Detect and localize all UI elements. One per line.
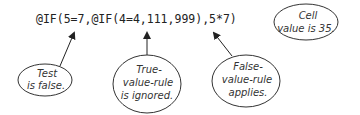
callout-test-line-1: Test [37, 68, 58, 79]
callout-cell-value-line-2: value is 35. [277, 23, 335, 34]
callout-false-value-rule: False- value-rule applies. [212, 55, 280, 107]
arrow-false-value-rule [214, 33, 232, 56]
callout-cell-value: Cell value is 35. [274, 4, 338, 40]
callout-true-value-rule-line-1: True- [136, 64, 162, 75]
callout-true-value-rule-line-3: is ignored. [121, 90, 174, 101]
callout-cell-value-line-1: Cell [299, 10, 318, 21]
callout-false-value-rule-line-1: False- [233, 61, 263, 72]
formula-text: @IF(5=7,@IF(4=4,111,999),5*7) [36, 12, 237, 26]
callout-test-line-2: is false. [27, 80, 65, 91]
arrow-test [60, 33, 74, 66]
callout-test: Test is false. [18, 64, 72, 96]
callout-true-value-rule: True- value-rule is ignored. [113, 55, 181, 113]
if-formula-diagram: @IF(5=7,@IF(4=4,111,999),5*7) Test is fa… [0, 0, 360, 115]
callout-false-value-rule-line-2: value-rule [222, 74, 272, 85]
callout-true-value-rule-line-2: value-rule [123, 77, 173, 88]
callout-false-value-rule-line-3: applies. [229, 87, 268, 98]
